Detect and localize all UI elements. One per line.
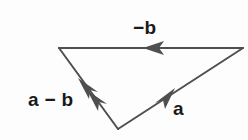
- vector-diagram: [0, 0, 248, 140]
- label-a: a: [173, 99, 184, 118]
- label-minus-b: −b: [133, 18, 156, 37]
- arrowhead-a-minus-b-second-icon: [87, 90, 107, 111]
- vector-figure: −b a − b a: [0, 0, 248, 140]
- label-a-minus-b: a − b: [28, 90, 73, 109]
- arrowheads: [78, 41, 175, 111]
- arrowhead-a-icon: [155, 88, 175, 109]
